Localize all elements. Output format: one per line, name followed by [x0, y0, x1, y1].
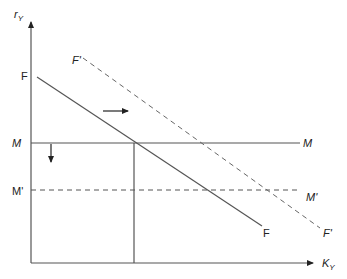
m-label-left: M: [12, 137, 22, 149]
x-axis-label: KY: [322, 257, 335, 272]
y-axis-label: rY: [14, 8, 24, 23]
diagram-svg: rY KY M M M' M' F F F' F': [0, 0, 347, 279]
f-prime-label-right: F': [323, 227, 333, 239]
f-curve: [37, 77, 262, 226]
f-prime-label-left: F': [72, 54, 82, 66]
m-prime-label-left: M': [12, 185, 23, 197]
m-label-right: M: [303, 137, 313, 149]
f-label-right: F: [263, 227, 270, 239]
diagram-canvas: rY KY M M M' M' F F F' F': [0, 0, 347, 279]
f-label-left: F: [21, 70, 28, 82]
m-prime-label-right: M': [306, 191, 318, 203]
